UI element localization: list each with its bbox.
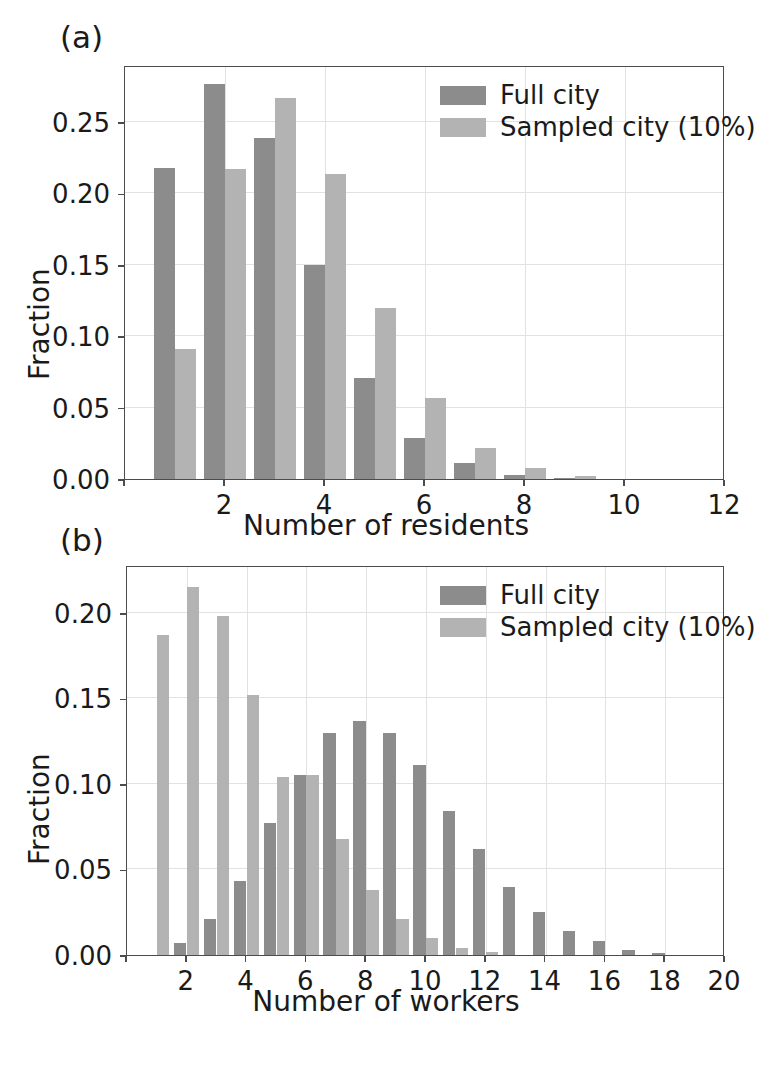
bar xyxy=(554,478,575,479)
panel-b-tag: (b) xyxy=(60,525,104,556)
bar xyxy=(503,887,515,955)
panel-a-y-axis-title: Fraction xyxy=(26,268,54,380)
x-tick-mark xyxy=(125,956,127,962)
bar xyxy=(254,138,275,479)
x-tick-mark xyxy=(723,956,725,962)
bar xyxy=(425,398,446,479)
y-tick-mark xyxy=(120,955,126,957)
y-tick-mark xyxy=(118,479,124,481)
x-tick-mark xyxy=(604,956,606,962)
y-tick-label: 0.05 xyxy=(52,396,110,422)
bar xyxy=(533,912,545,955)
y-tick-label: 0.05 xyxy=(54,857,112,883)
x-tick-mark xyxy=(663,956,665,962)
bar xyxy=(504,475,525,479)
panel-a-legend: Full citySampled city (10%) xyxy=(440,82,756,140)
legend-label: Full city xyxy=(500,582,600,608)
bar xyxy=(652,953,664,955)
legend-swatch-icon xyxy=(440,86,486,105)
panel-b-legend: Full citySampled city (10%) xyxy=(440,582,756,640)
bar xyxy=(593,941,605,955)
x-tick-mark xyxy=(723,480,725,486)
legend-label: Full city xyxy=(500,82,600,108)
bar xyxy=(294,775,306,955)
bar xyxy=(622,950,634,955)
x-tick-mark xyxy=(423,480,425,486)
bar xyxy=(325,174,346,480)
bar xyxy=(154,168,175,479)
y-tick-label: 0.20 xyxy=(52,181,110,207)
bar xyxy=(175,349,196,479)
panel-b-x-axis-title: Number of workers xyxy=(0,988,772,1016)
bar xyxy=(217,616,229,955)
bar xyxy=(473,849,485,955)
y-tick-label: 0.15 xyxy=(54,686,112,712)
y-tick-mark xyxy=(118,122,124,124)
legend-entry: Full city xyxy=(440,582,756,608)
x-tick-mark xyxy=(364,956,366,962)
y-tick-mark xyxy=(118,336,124,338)
bar xyxy=(174,943,186,955)
y-tick-label: 0.10 xyxy=(52,324,110,350)
bar xyxy=(475,448,496,479)
y-tick-mark xyxy=(118,194,124,196)
y-tick-mark xyxy=(120,699,126,701)
bar xyxy=(275,98,296,479)
x-tick-mark xyxy=(523,480,525,486)
bar xyxy=(454,463,475,479)
bar xyxy=(353,721,365,955)
bar xyxy=(426,938,438,955)
bar xyxy=(375,308,396,479)
bar xyxy=(157,635,169,955)
y-tick-label: 0.10 xyxy=(54,772,112,798)
legend-label: Sampled city (10%) xyxy=(500,114,756,140)
x-tick-mark xyxy=(245,956,247,962)
y-tick-mark xyxy=(118,265,124,267)
panel-b-y-axis-title: Fraction xyxy=(26,753,54,865)
legend-entry: Sampled city (10%) xyxy=(440,614,756,640)
bar xyxy=(323,733,335,955)
y-tick-mark xyxy=(120,784,126,786)
panel-b: (b) Fraction 24681012141618200.000.050.1… xyxy=(0,500,772,1073)
x-tick-mark xyxy=(123,480,125,486)
y-tick-mark xyxy=(120,870,126,872)
legend-swatch-icon xyxy=(440,586,486,605)
x-tick-mark xyxy=(484,956,486,962)
y-tick-mark xyxy=(118,408,124,410)
bar xyxy=(306,775,318,955)
legend-swatch-icon xyxy=(440,618,486,637)
panel-a: (a) Fraction 246810120.000.050.100.150.2… xyxy=(0,0,772,537)
x-tick-mark xyxy=(305,956,307,962)
x-tick-mark xyxy=(323,480,325,486)
x-tick-mark xyxy=(424,956,426,962)
bar xyxy=(187,587,199,955)
legend-entry: Sampled city (10%) xyxy=(440,114,756,140)
legend-label: Sampled city (10%) xyxy=(500,614,756,640)
bar xyxy=(336,839,348,955)
bar xyxy=(204,919,216,955)
bar xyxy=(277,777,289,955)
x-tick-mark xyxy=(544,956,546,962)
bar xyxy=(456,948,468,955)
gridline-vertical xyxy=(426,567,427,955)
y-tick-label: 0.15 xyxy=(52,253,110,279)
bar xyxy=(225,169,246,479)
bar xyxy=(486,952,498,955)
bar xyxy=(304,265,325,479)
bar xyxy=(575,476,596,479)
bar xyxy=(264,823,276,955)
y-tick-label: 0.25 xyxy=(52,110,110,136)
legend-swatch-icon xyxy=(440,118,486,137)
bar xyxy=(404,438,425,479)
panel-a-tag: (a) xyxy=(60,22,103,53)
y-tick-label: 0.00 xyxy=(54,943,112,969)
figure-two-panel-histogram: (a) Fraction 246810120.000.050.100.150.2… xyxy=(0,0,772,1073)
bar xyxy=(126,953,127,955)
bar xyxy=(396,919,408,955)
bar xyxy=(204,84,225,479)
bar xyxy=(383,733,395,955)
x-tick-mark xyxy=(623,480,625,486)
y-tick-mark xyxy=(120,613,126,615)
bar xyxy=(413,765,425,955)
bar xyxy=(443,811,455,955)
